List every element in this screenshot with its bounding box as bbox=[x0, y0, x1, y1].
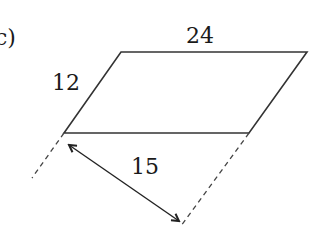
slanted-side-length-label: 12 bbox=[52, 72, 80, 94]
diagram-canvas bbox=[0, 0, 318, 251]
dashed-extension-left bbox=[32, 133, 64, 178]
dashed-extension-right bbox=[181, 133, 249, 226]
parallelogram-shape bbox=[64, 52, 307, 133]
perpendicular-height-label: 15 bbox=[131, 156, 159, 178]
parallelogram-diagram: c) 24 12 15 bbox=[0, 0, 318, 251]
part-label: c) bbox=[0, 27, 16, 49]
top-side-length-label: 24 bbox=[186, 25, 214, 47]
height-arrow bbox=[69, 145, 179, 221]
